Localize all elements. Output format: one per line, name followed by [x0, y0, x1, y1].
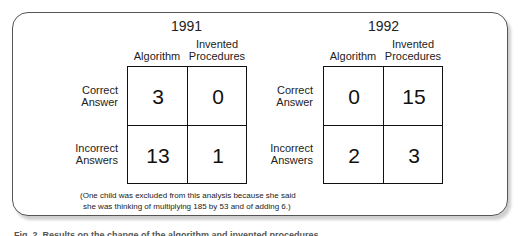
cell-1992-correct-invented: 15 — [384, 67, 444, 126]
figure-caption: Fig. 2. Results on the change of the alg… — [14, 230, 319, 236]
panel-1991-row-correct: Correct Answer — [60, 84, 118, 108]
panel-1991-row-incorrect: Incorrect Answers — [60, 142, 118, 166]
panel-1992-year: 1992 — [368, 18, 399, 34]
exclusion-note: (One child was excluded from this analys… — [80, 190, 296, 212]
panel-1992-row-correct: Correct Answer — [255, 84, 313, 108]
note-line-1: (One child was excluded from this analys… — [80, 190, 296, 201]
cell-1991-correct-invented: 0 — [188, 67, 248, 126]
panel-1992-grid: 0 15 2 3 — [323, 66, 443, 184]
cell-1992-correct-algorithm: 0 — [324, 67, 384, 126]
panel-1991-year: 1991 — [171, 18, 202, 34]
panel-1992-col-algorithm: Algorithm — [323, 50, 383, 62]
cell-1991-incorrect-algorithm: 13 — [128, 126, 188, 185]
panel-1991-col-invented: Invented Procedures — [187, 38, 247, 62]
cell-1992-incorrect-invented: 3 — [384, 126, 444, 185]
panel-1991-grid: 3 0 13 1 — [127, 66, 247, 184]
cell-1991-correct-algorithm: 3 — [128, 67, 188, 126]
panel-1992-col-invented: Invented Procedures — [383, 38, 443, 62]
panel-1992-row-incorrect: Incorrect Answers — [255, 142, 313, 166]
panel-1991-col-algorithm: Algorithm — [127, 50, 187, 62]
cell-1991-incorrect-invented: 1 — [188, 126, 248, 185]
cell-1992-incorrect-algorithm: 2 — [324, 126, 384, 185]
note-line-2: she was thinking of multiplying 185 by 5… — [80, 201, 296, 212]
